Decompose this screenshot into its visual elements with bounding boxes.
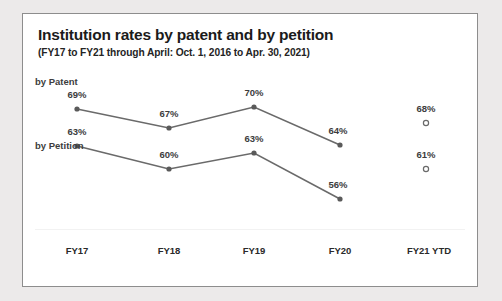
marker-petition-fy21ytd	[423, 166, 428, 171]
chart-card: Institution rates by patent and by petit…	[22, 13, 478, 287]
axis-label-fy20: FY20	[329, 245, 352, 256]
marker-patent-fy18	[166, 125, 171, 130]
value-label-petition-fy19: 63%	[244, 133, 263, 144]
marker-petition-fy19	[251, 150, 256, 155]
marker-petition-fy18	[166, 166, 171, 171]
value-label-patent-fy18: 67%	[159, 108, 178, 119]
series-line-petition	[74, 143, 428, 201]
axis-label-fy18: FY18	[158, 245, 181, 256]
series-label-petition: by Petition	[35, 140, 84, 151]
marker-patent-fy17	[74, 106, 79, 111]
value-label-petition-fy18: 60%	[159, 149, 178, 160]
value-label-petition-fy20: 56%	[328, 179, 347, 190]
axis-label-fy21ytd: FY21 YTD	[407, 245, 451, 256]
value-label-patent-fy21ytd: 68%	[416, 103, 435, 114]
axis-label-fy19: FY19	[243, 245, 266, 256]
marker-petition-fy20	[337, 196, 342, 201]
value-label-petition-fy21ytd: 61%	[416, 149, 435, 160]
marker-patent-fy21ytd	[423, 120, 428, 125]
marker-patent-fy19	[251, 104, 256, 109]
series-label-patent: by Patent	[35, 76, 78, 87]
marker-patent-fy20	[337, 142, 342, 147]
value-label-patent-fy17: 69%	[67, 89, 86, 100]
axis-divider	[35, 229, 465, 230]
value-label-petition-fy17: 63%	[67, 126, 86, 137]
value-label-patent-fy20: 64%	[328, 125, 347, 136]
value-label-patent-fy19: 70%	[244, 87, 263, 98]
axis-label-fy17: FY17	[66, 245, 89, 256]
